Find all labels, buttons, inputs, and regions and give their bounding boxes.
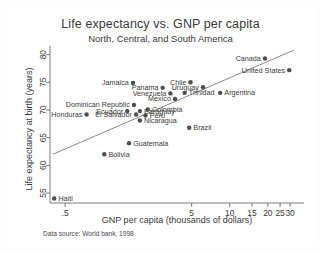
data-point-label: Canada: [236, 54, 261, 63]
data-point-label: El Salvador: [95, 110, 132, 119]
data-point-label: Guatemala: [133, 139, 168, 148]
data-points: CanadaUnited StatesJamaicaChilePanamaUru…: [51, 54, 291, 203]
data-point-label: Bolivia: [108, 150, 129, 159]
svg-text:65: 65: [38, 133, 48, 143]
data-point-label: Nicaragua: [144, 116, 177, 125]
data-point-label: Mexico: [148, 94, 171, 103]
data-point-marker: [187, 126, 191, 130]
data-point-marker: [52, 196, 56, 200]
data-point-label: United States: [242, 66, 286, 75]
data-point-marker: [263, 56, 267, 60]
data-point-marker: [138, 109, 142, 113]
data-point-marker: [102, 152, 106, 156]
svg-text:75: 75: [38, 77, 48, 87]
svg-text:60: 60: [38, 160, 48, 170]
source-note: Data source: World bank, 1998: [43, 230, 134, 237]
data-point-label: Trinidad: [189, 88, 215, 97]
chart-figure: Life expectancy vs. GNP per capita North…: [0, 0, 321, 253]
data-point-marker: [84, 112, 88, 116]
data-point-label: Brazil: [193, 123, 211, 132]
svg-text:80: 80: [38, 50, 48, 60]
svg-text:70: 70: [38, 105, 48, 115]
data-point-marker: [287, 68, 291, 72]
data-point-label: Haiti: [58, 194, 73, 203]
chart-canvas: Life expectancy vs. GNP per capita North…: [7, 6, 314, 247]
scatter-plot: 556065707580.551015202530 CanadaUnited S…: [7, 6, 314, 247]
data-point-marker: [218, 91, 222, 95]
data-point-label: Argentina: [224, 88, 255, 97]
svg-text:55: 55: [38, 188, 48, 198]
data-point-marker: [173, 97, 177, 101]
data-point-marker: [132, 103, 136, 107]
data-point-marker: [182, 91, 186, 95]
data-point-marker: [134, 112, 138, 116]
data-point-marker: [127, 141, 131, 145]
x-axis-label: GNP per capita (thousands of dollars): [50, 215, 304, 225]
y-axis-label: Life expectancy at birth (years): [24, 49, 34, 209]
data-point-label: Honduras: [51, 110, 83, 119]
data-point-label: Jamaica: [102, 78, 129, 87]
data-point-marker: [138, 118, 142, 122]
